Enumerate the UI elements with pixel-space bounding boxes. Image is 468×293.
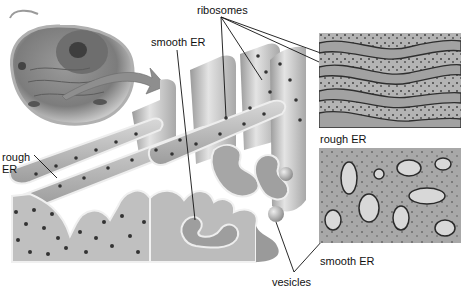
- er-diagram: rough ER smooth ER ribosomes smooth ER r…: [0, 0, 468, 293]
- rough-er-label-line1: rough: [2, 151, 30, 163]
- vesicles-label: vesicles: [272, 276, 311, 288]
- smooth-er-label: smooth ER: [151, 36, 205, 48]
- rough-er-label-line2: ER: [2, 163, 30, 175]
- rough-er-label: rough ER: [2, 151, 30, 175]
- cell-illustration: [10, 11, 133, 124]
- ribosomes-label: ribosomes: [197, 4, 248, 16]
- smooth-er-micrograph-caption: smooth ER: [320, 255, 374, 267]
- rough-er-micrograph-caption: rough ER: [320, 133, 366, 145]
- smooth-er-micrograph: [319, 148, 461, 243]
- rough-er-micrograph: [319, 33, 461, 128]
